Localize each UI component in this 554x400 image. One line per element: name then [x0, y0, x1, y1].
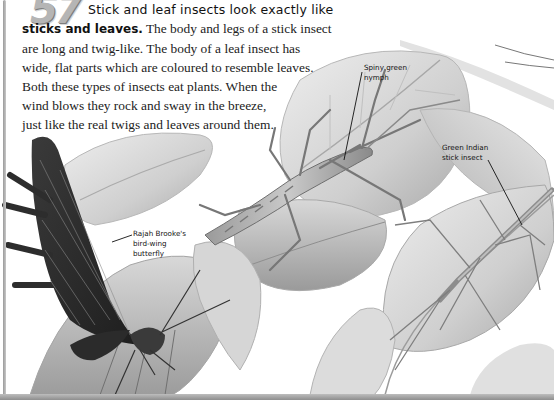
body-line-4: Both these types of insects eat plants. … [22, 77, 352, 96]
label-spiny-green-nymph: Spiny green nymph [364, 63, 407, 83]
encyclopedia-page: 57 Stick and leaf insects look exactly l… [0, 0, 554, 400]
page-bottom-edge [0, 394, 554, 400]
body-line-2: are long and twig-like. The body of a le… [22, 39, 352, 58]
body-line-5: wind blows they rock and sway in the bre… [22, 96, 352, 115]
fact-lead: sticks and leaves. [22, 22, 143, 36]
body-line-1: sticks and leaves. The body and legs of … [22, 19, 352, 39]
fact-body: sticks and leaves. The body and legs of … [22, 19, 352, 134]
body-line-6: just like the real twigs and leaves arou… [22, 115, 352, 134]
page-edge [3, 0, 6, 395]
body-line-3: wide, flat parts which are coloured to r… [22, 58, 352, 77]
label-green-indian-stick-insect: Green Indian stick insect [442, 143, 488, 163]
fact-headline: Stick and leaf insects look exactly like [88, 2, 334, 17]
label-rajah-brookes-butterfly: Rajah Brooke's bird-wing butterfly [133, 229, 186, 259]
leaf-upper-left [63, 133, 213, 225]
